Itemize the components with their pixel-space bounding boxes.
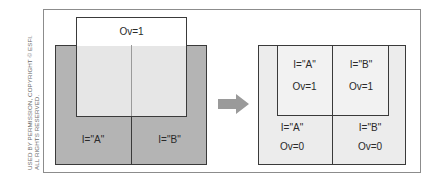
before-overlay-label: Ov=1: [76, 26, 187, 37]
after-cell-a-top-interlock: I="A": [277, 59, 332, 70]
before-overlay-divider: [131, 45, 132, 116]
after-cell-b-top-ov: Ov=1: [333, 81, 389, 92]
right-arrow-icon: [218, 94, 250, 114]
copyright-credit: USED BY PERMISSION, COPYRIGHT © ESFI. AL…: [26, 30, 40, 170]
after-cell-a-top-ov: Ov=1: [277, 81, 332, 92]
after-cell-b-bottom-interlock: I="B": [340, 122, 400, 133]
after-cell-a-bottom-ov: Ov=0: [262, 141, 322, 152]
after-cell-a-bottom-interlock: I="A": [262, 122, 322, 133]
after-cell-b-bottom-ov: Ov=0: [340, 141, 400, 152]
before-cell-a-label: I="A": [55, 134, 131, 145]
after-cell-b-top-interlock: I="B": [333, 59, 389, 70]
before-cell-b-label: I="B": [132, 134, 207, 145]
